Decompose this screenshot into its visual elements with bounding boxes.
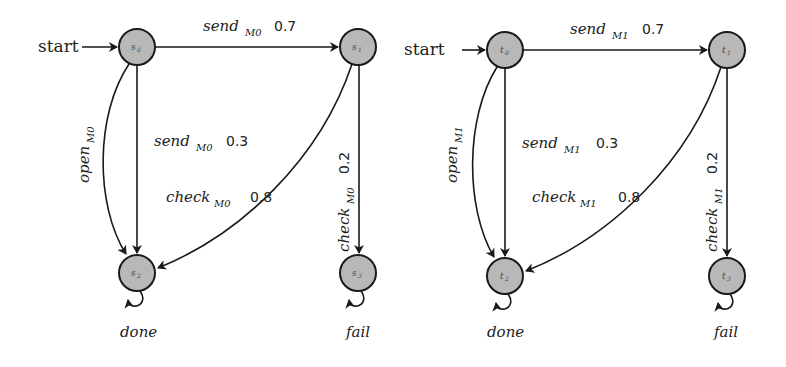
machine-m0: start send M0 0.7 send M0 0.3 open M0 ch… — [38, 17, 376, 341]
start-label-m1: start — [404, 39, 445, 59]
svg-text:0.7: 0.7 — [642, 21, 664, 37]
loop-label-t3: fail — [713, 323, 738, 341]
svg-text:check: check — [166, 188, 210, 206]
svg-text:3: 3 — [727, 275, 731, 282]
node-t2: t 2 — [487, 258, 523, 294]
svg-text:0: 0 — [137, 46, 141, 53]
svg-text:M1: M1 — [453, 126, 464, 144]
node-s3: s 3 — [340, 255, 376, 291]
loop-label-s2: done — [120, 323, 157, 341]
machine-m1: start send M1 0.7 send M1 0.3 open M1 ch… — [404, 20, 745, 341]
svg-text:1: 1 — [358, 46, 362, 53]
loop-t3 — [718, 294, 733, 309]
svg-text:M1: M1 — [563, 144, 581, 155]
svg-text:M1: M1 — [611, 30, 629, 41]
svg-text:send: send — [154, 132, 190, 150]
svg-text:M0: M0 — [213, 198, 231, 209]
svg-text:M0: M0 — [345, 187, 356, 205]
node-s0: s 0 — [119, 29, 155, 65]
svg-text:0.2: 0.2 — [704, 152, 720, 174]
node-t3: t 3 — [709, 258, 745, 294]
loop-label-t2: done — [487, 323, 524, 341]
svg-text:0.2: 0.2 — [336, 152, 352, 174]
svg-text:0.7: 0.7 — [274, 18, 296, 34]
svg-text:2: 2 — [136, 272, 141, 279]
svg-text:1: 1 — [727, 49, 731, 56]
svg-text:M1: M1 — [713, 187, 724, 205]
svg-text:check: check — [335, 208, 353, 252]
loop-t2 — [496, 294, 511, 309]
svg-text:s: s — [131, 42, 136, 52]
node-t0: t 0 — [487, 32, 523, 68]
loop-label-s3: fail — [345, 323, 370, 341]
start-label-m0: start — [38, 36, 79, 56]
svg-text:0: 0 — [505, 49, 509, 56]
loop-s3 — [349, 291, 364, 306]
svg-text:M0: M0 — [195, 142, 213, 153]
svg-text:check: check — [703, 208, 721, 252]
svg-text:M0: M0 — [85, 126, 96, 144]
node-s1: s 1 — [340, 29, 376, 65]
svg-text:M1: M1 — [579, 198, 597, 209]
edge-label-s1-s3: check M0 0.2 — [335, 152, 356, 252]
edge-label-s0-s2-open: open M0 — [75, 126, 96, 183]
svg-text:open: open — [443, 146, 461, 183]
svg-text:send: send — [570, 20, 606, 38]
edge-label-t0-t2-send: send M1 0.3 — [522, 134, 618, 155]
svg-text:send: send — [522, 134, 558, 152]
mdp-diagram: start send M0 0.7 send M0 0.3 open M0 ch… — [0, 0, 786, 367]
node-s2: s 2 — [119, 255, 155, 291]
edge-label-t1-t3: check M1 0.2 — [703, 152, 724, 252]
loop-s2 — [128, 291, 143, 306]
svg-text:t: t — [722, 45, 726, 55]
svg-text:0.3: 0.3 — [226, 133, 248, 149]
svg-text:open: open — [75, 146, 93, 183]
svg-text:s: s — [352, 268, 357, 278]
edge-label-s0-s2-send: send M0 0.3 — [154, 132, 248, 153]
node-t1: t 1 — [709, 32, 745, 68]
edge-label-s0-s1: send M0 0.7 — [203, 17, 296, 38]
svg-text:M0: M0 — [244, 27, 262, 38]
edge-s0-s2-open — [103, 64, 129, 254]
svg-text:send: send — [203, 17, 239, 35]
svg-text:t: t — [500, 271, 504, 281]
edge-label-t1-t2: check M1 0.8 — [532, 188, 640, 209]
edge-s1-s2 — [158, 64, 352, 268]
svg-text:0.8: 0.8 — [250, 189, 272, 205]
svg-text:0.3: 0.3 — [596, 135, 618, 151]
edge-label-t0-t2-open: open M1 — [443, 126, 464, 183]
edge-t0-t2-open — [473, 67, 497, 257]
edge-t1-t2 — [526, 67, 721, 271]
svg-text:check: check — [532, 188, 576, 206]
svg-text:3: 3 — [358, 272, 362, 279]
svg-text:s: s — [352, 42, 357, 52]
svg-text:t: t — [500, 45, 504, 55]
svg-text:s: s — [131, 268, 136, 278]
svg-text:2: 2 — [504, 275, 509, 282]
svg-text:t: t — [722, 271, 726, 281]
edge-label-t0-t1: send M1 0.7 — [570, 20, 664, 41]
svg-text:0.8: 0.8 — [618, 189, 640, 205]
